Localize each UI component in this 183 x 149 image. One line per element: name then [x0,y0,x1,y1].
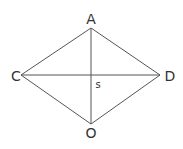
intersection-label-s: s [95,79,100,90]
vertex-label-o: O [85,125,96,141]
vertex-label-d: D [165,68,176,84]
edge-a-d [91,28,160,75]
vertex-label-c: C [11,68,21,84]
vertex-label-a: A [86,11,96,27]
edge-c-o [21,75,91,124]
edge-d-o [91,75,160,124]
edge-a-c [21,28,91,75]
rhombus-diagram: A C D O s [0,0,183,149]
